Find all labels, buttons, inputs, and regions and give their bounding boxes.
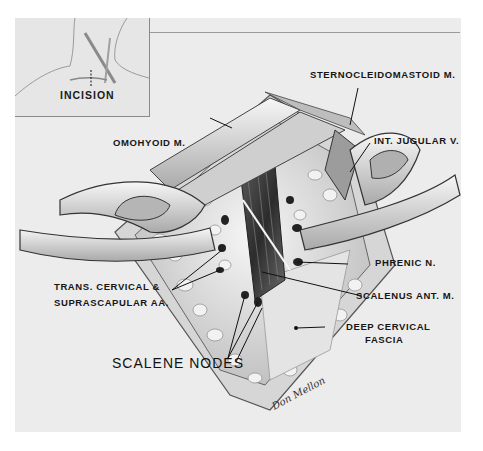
label-scalenus: SCALENUS ANT. M.: [356, 290, 454, 302]
label-deep-cervical: DEEP CERVICAL: [346, 321, 431, 333]
label-sternocleidomastoid: STERNOCLEIDOMASTOID M.: [310, 69, 456, 81]
label-int-jugular: INT. JUGULAR V.: [374, 135, 459, 147]
neck-sketch-icon: [15, 18, 149, 116]
incision-inset: INCISION: [15, 18, 150, 117]
label-scalene-nodes: SCALENE NODES: [112, 357, 244, 369]
incision-label: INCISION: [60, 89, 115, 101]
label-suprascapular: SUPRASCAPULAR AA.: [54, 297, 169, 309]
label-omohyoid: OMOHYOID M.: [113, 137, 186, 149]
label-trans-cervical: TRANS. CERVICAL &: [54, 281, 160, 293]
label-fascia: FASCIA: [365, 334, 403, 346]
label-phrenic: PHRENIC N.: [375, 257, 436, 269]
